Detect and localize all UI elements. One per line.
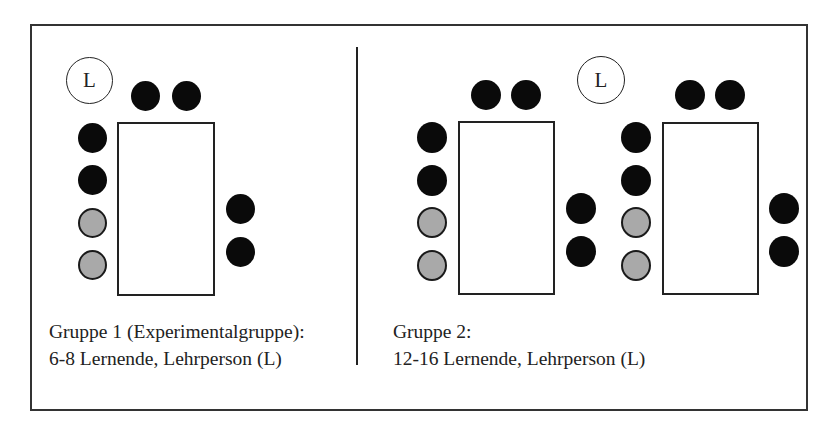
learner-highlight-icon (621, 250, 651, 281)
learner-highlight-icon (78, 208, 107, 238)
group-1-description: 6-8 Lernende, Lehrperson (L) (49, 345, 305, 372)
table (458, 121, 555, 295)
learner-icon (566, 193, 596, 224)
learner-highlight-icon (417, 207, 447, 238)
learner-icon (417, 165, 447, 196)
learner-icon (769, 236, 799, 267)
learner-icon (675, 80, 705, 110)
group-2-title: Gruppe 2: (393, 318, 645, 345)
learner-icon (226, 194, 255, 224)
learner-icon (511, 80, 541, 110)
learner-icon (172, 81, 201, 111)
group-2-caption: Gruppe 2: 12-16 Lernende, Lehrperson (L) (393, 318, 645, 372)
group-1-title: Gruppe 1 (Experimentalgruppe): (49, 318, 305, 345)
learner-icon (131, 81, 160, 111)
group-2-description: 12-16 Lernende, Lehrperson (L) (393, 345, 645, 372)
learner-icon (471, 80, 501, 110)
teacher-icon: L (577, 56, 625, 104)
group-1-caption: Gruppe 1 (Experimentalgruppe): 6-8 Lerne… (49, 318, 305, 372)
learner-icon (226, 237, 255, 267)
learner-icon (715, 80, 745, 110)
learner-icon (78, 165, 107, 195)
table (117, 122, 215, 296)
learner-icon (78, 123, 107, 153)
learner-highlight-icon (417, 250, 447, 281)
learner-icon (417, 122, 447, 153)
learner-icon (566, 236, 596, 267)
group-divider (356, 47, 358, 365)
table (662, 122, 759, 295)
learner-icon (769, 193, 799, 224)
learner-highlight-icon (78, 250, 107, 280)
learner-highlight-icon (621, 207, 651, 238)
teacher-icon: L (66, 57, 113, 104)
learner-icon (621, 165, 651, 196)
learner-icon (621, 122, 651, 153)
